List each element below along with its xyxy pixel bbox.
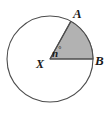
center-label-x: X	[36, 58, 44, 70]
point-label-a: A	[73, 7, 82, 20]
degree-symbol: °	[58, 45, 61, 54]
angle-label-n-degrees: n°	[52, 46, 61, 59]
point-label-b: B	[95, 54, 104, 67]
geometry-figure: A B X n°	[0, 0, 108, 115]
